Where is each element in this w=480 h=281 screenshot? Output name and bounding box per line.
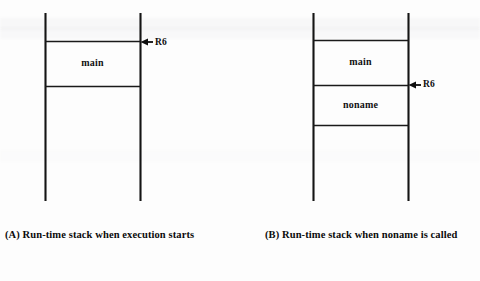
left-arrow-head-icon [409,82,417,89]
panel-b-frame-label-main: main [313,56,408,67]
panel-a-caption: (A) Run-time stack when execution starts [5,229,194,240]
panel-a-frame-label-main: main [45,57,140,68]
left-arrow-head-icon [141,39,149,46]
panel-b-frame-label-noname: noname [313,99,408,110]
panel-a-stack-pointer-label: R6 [155,37,167,47]
figure-root: main main noname R6 R6 (A) Run-time stac… [0,0,480,281]
panel-a-stack [45,13,153,201]
panel-a-r6-arrow [141,39,154,46]
panel-b-r6-arrow [409,82,422,89]
panel-b-caption: (B) Run-time stack when noname is called [265,229,457,240]
panel-b-stack-pointer-label: R6 [423,79,435,89]
